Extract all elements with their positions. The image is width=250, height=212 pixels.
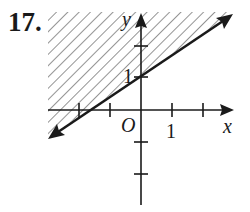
y-axis-label: y	[120, 8, 131, 31]
x-tick-label: 1	[166, 120, 176, 142]
origin-label: O	[121, 114, 135, 136]
x-axis-label: x	[222, 115, 232, 137]
inequality-graph: y 1 O 1 x	[0, 0, 250, 212]
y-tick-label: 1	[123, 65, 133, 87]
